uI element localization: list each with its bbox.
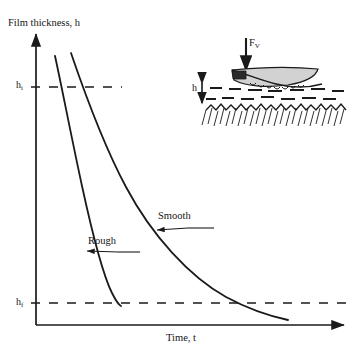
rough-surface-crest (206, 104, 346, 110)
reference-lines (31, 87, 346, 303)
y-tick-label-hi: hi (16, 80, 23, 90)
data-curves (55, 53, 288, 320)
y-axis-title: Film thickness, h (8, 18, 80, 29)
y-tick-hi-subscript: i (21, 84, 23, 91)
x-axis-title: Time, t (166, 333, 196, 344)
rough-surface-hatching (202, 108, 344, 126)
curve-rough (55, 56, 121, 306)
squeeze-film-figure: Film thickness, h Time, t hi hf Rough Sm… (0, 0, 354, 360)
bearing-edge-block (232, 71, 246, 79)
y-tick-label-hf: hf (16, 297, 23, 307)
curve-annotation-smooth: Smooth (158, 211, 191, 222)
fluid-film-dashes (206, 88, 344, 99)
inset-gap-label: h (192, 83, 197, 93)
y-tick-hf-subscript: f (21, 301, 23, 308)
curve-annotation-rough: Rough (88, 236, 116, 247)
rough-leader-line (87, 251, 118, 252)
inset-force-subscript: V (255, 42, 260, 50)
inset-force-label: FV (249, 38, 260, 49)
inset-force-base: F (249, 37, 255, 48)
smooth-leader-line (157, 228, 188, 230)
plot-canvas (0, 0, 354, 360)
curve-smooth (71, 53, 288, 320)
inset-schematic (202, 38, 346, 126)
